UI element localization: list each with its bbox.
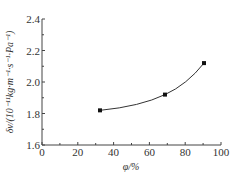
y-tick-label: 1.8 [26,108,40,120]
data-points [98,61,206,112]
x-tick-label: 40 [108,146,120,158]
chart: 1.61.82.02.22.4 020406080100 φ/% δv/(10⁻… [0,0,240,174]
x-axis: 020406080100 [39,142,230,158]
y-axis: 1.61.82.02.22.4 [26,13,45,151]
y-tick-label: 2.2 [26,45,40,57]
x-tick-label: 0 [39,146,45,158]
x-tick-label: 20 [72,146,84,158]
x-tick-label: 100 [213,146,230,158]
x-axis-label: φ/% [123,161,140,172]
data-point [98,108,102,112]
y-tick-label: 2.4 [26,13,40,25]
y-tick-label: 2.0 [26,76,40,88]
fit-curve [100,63,204,110]
data-point [202,61,206,65]
x-tick-label: 80 [180,146,192,158]
data-point [163,93,167,97]
y-axis-label: δv/(10⁻¹¹kg·m⁻¹·s⁻¹·Pa⁻¹) [4,30,16,133]
x-tick-label: 60 [144,146,156,158]
